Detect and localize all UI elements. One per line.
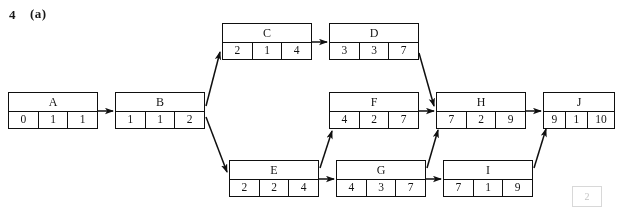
node-b[interactable]: B112 (115, 92, 205, 129)
node-h-value-1: 7 (437, 112, 467, 128)
scan-residue-box: 2 (572, 186, 602, 207)
node-f-value-3: 7 (389, 112, 418, 128)
node-c-values: 214 (223, 43, 311, 59)
node-d-label: D (330, 24, 418, 43)
node-d-values: 337 (330, 43, 418, 59)
node-b-value-2: 1 (146, 112, 176, 128)
node-f-values: 427 (330, 112, 418, 128)
node-b-value-1: 1 (116, 112, 146, 128)
node-g-label: G (337, 161, 425, 180)
node-f-value-2: 2 (360, 112, 390, 128)
node-e-value-3: 4 (289, 180, 318, 196)
node-h-value-2: 2 (467, 112, 497, 128)
node-c-value-1: 2 (223, 43, 253, 59)
node-c-label: C (223, 24, 311, 43)
node-i-label: I (444, 161, 532, 180)
node-f-label: F (330, 93, 418, 112)
node-a[interactable]: A011 (8, 92, 98, 129)
node-d-value-2: 3 (360, 43, 390, 59)
node-j-label: J (544, 93, 614, 112)
node-h[interactable]: H729 (436, 92, 526, 129)
node-e-value-2: 2 (260, 180, 290, 196)
node-g-value-2: 3 (367, 180, 397, 196)
node-i-value-3: 9 (503, 180, 532, 196)
node-j-value-1: 9 (544, 112, 566, 128)
node-c-value-2: 1 (253, 43, 283, 59)
node-i-values: 719 (444, 180, 532, 196)
node-c-value-3: 4 (282, 43, 311, 59)
node-b-label: B (116, 93, 204, 112)
node-f-value-1: 4 (330, 112, 360, 128)
node-d-value-3: 7 (389, 43, 418, 59)
node-e[interactable]: E224 (229, 160, 319, 197)
node-a-values: 011 (9, 112, 97, 128)
node-b-value-3: 2 (175, 112, 204, 128)
node-d[interactable]: D337 (329, 23, 419, 60)
node-a-label: A (9, 93, 97, 112)
node-j[interactable]: J9110 (543, 92, 615, 129)
node-j-value-3: 10 (588, 112, 614, 128)
node-a-value-2: 1 (39, 112, 69, 128)
node-f[interactable]: F427 (329, 92, 419, 129)
node-i-value-2: 1 (474, 180, 504, 196)
edge-b-e (206, 117, 227, 172)
node-j-value-2: 1 (566, 112, 588, 128)
node-g-value-1: 4 (337, 180, 367, 196)
node-h-label: H (437, 93, 525, 112)
node-h-value-3: 9 (496, 112, 525, 128)
node-e-values: 224 (230, 180, 318, 196)
node-d-value-1: 3 (330, 43, 360, 59)
node-g[interactable]: G437 (336, 160, 426, 197)
node-j-values: 9110 (544, 112, 614, 128)
edge-d-h (419, 53, 434, 106)
node-a-value-3: 1 (68, 112, 97, 128)
node-g-values: 437 (337, 180, 425, 196)
edge-e-f (320, 131, 332, 168)
node-a-value-1: 0 (9, 112, 39, 128)
node-e-label: E (230, 161, 318, 180)
diagram-canvas: 4 (a) (0, 0, 621, 208)
node-b-values: 112 (116, 112, 204, 128)
edge-g-h (427, 130, 438, 168)
edge-i-j (534, 129, 546, 168)
node-i-value-1: 7 (444, 180, 474, 196)
node-c[interactable]: C214 (222, 23, 312, 60)
node-g-value-3: 7 (396, 180, 425, 196)
node-h-values: 729 (437, 112, 525, 128)
edge-b-c (206, 52, 220, 106)
node-e-value-1: 2 (230, 180, 260, 196)
node-i[interactable]: I719 (443, 160, 533, 197)
